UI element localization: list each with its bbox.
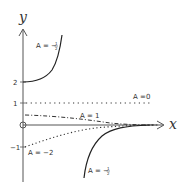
svg-text:2: 2 [55,46,58,51]
fraction-half-lower: 1 2 [107,166,111,176]
label-a-one: A = 1 [80,112,100,120]
chart: y x 2 1 −1 A = − 1 2 A =0 A = 1 A = −2 A… [0,0,183,194]
label-a-neg-half-lower: A = − [88,167,109,175]
y-axis [19,29,27,182]
label-a-zero: A =0 [133,93,150,101]
label-a-neg-two: A = −2 [28,149,53,157]
label-a-neg-half-upper: A = − [36,42,57,50]
curve-a-neg-two [25,125,158,147]
y-tick-2: 2 [13,79,17,87]
x-axis-label: x [169,116,177,132]
fraction-half-upper: 1 2 [55,41,59,51]
y-axis-label: y [18,9,28,25]
y-tick-minus-1: −1 [10,144,20,152]
svg-text:2: 2 [107,171,110,176]
y-tick-1: 1 [13,100,17,108]
